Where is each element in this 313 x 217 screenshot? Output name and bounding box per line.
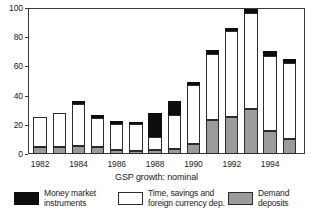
bar-segment-money-market [91,115,104,118]
chart-caption: GSP growth: nominal [0,172,313,183]
bar-segment-time-savings [110,124,123,150]
bar-segment-money-market [187,82,200,86]
x-tick-label: 1992 [223,159,242,169]
chart-legend: Money market instruments Time, savings a… [14,189,306,215]
bar-group [244,9,257,154]
bar-segment-time-savings [206,54,219,120]
bar-segment-demand-deposits [33,147,46,154]
bar-segment-money-market [283,59,296,63]
legend-label-money-market: Money market instruments [44,189,96,208]
bar-segment-demand-deposits [187,144,200,154]
y-tick-label: 20 [14,120,23,129]
bar-segment-time-savings [168,115,181,149]
bar-group [53,113,66,154]
demand-deposits-swatch [228,192,253,205]
y-tick-label: 0 [18,150,23,159]
bar-segment-time-savings [129,124,142,151]
bar-segment-time-savings [283,63,296,138]
bar-segment-money-market [72,101,85,103]
bar-segment-demand-deposits [263,131,276,154]
bar-group [283,59,296,154]
stacked-bar-chart-figure: 020406080100 198219841986198819901992199… [0,0,313,217]
bar-segment-money-market [148,113,161,137]
y-tick-label: 80 [14,33,23,42]
bar-segment-time-savings [263,56,276,130]
bar-segment-time-savings [244,13,257,109]
bar-segment-demand-deposits [244,109,257,154]
bar-segment-money-market [129,122,142,124]
bar-segment-money-market [206,50,219,54]
x-tick-label: 1990 [184,159,203,169]
y-tick-label: 100 [9,4,23,13]
bar-segment-time-savings [187,85,200,143]
bar-segment-demand-deposits [225,117,238,154]
bar-segment-money-market [263,51,276,56]
bar-group [263,51,276,154]
bar-group [168,101,181,154]
bar-group [110,121,123,154]
bar-group [187,82,200,154]
bar-segment-money-market [168,101,181,116]
x-tick-label: 1988 [146,159,165,169]
x-tick-label: 1986 [107,159,126,169]
y-axis: 020406080100 [0,0,28,162]
bar-segment-demand-deposits [283,139,296,154]
bar-segment-time-savings [225,31,238,116]
bars-layer [28,8,305,154]
legend-item-demand-deposits: Demand deposits [228,189,306,208]
bar-segment-time-savings [72,104,85,146]
bar-segment-demand-deposits [206,120,219,154]
bar-group [91,115,104,154]
legend-label-time-savings: Time, savings and foreign currency dep. [148,189,225,208]
bar-group [225,28,238,154]
bar-group [33,117,46,154]
bar-segment-money-market [225,28,238,31]
x-tick-label: 1994 [261,159,280,169]
x-tick-label: 1984 [69,159,88,169]
bar-segment-demand-deposits [53,147,66,154]
x-tick-label: 1982 [31,159,50,169]
time-savings-swatch [118,192,143,205]
bar-segment-demand-deposits [72,146,85,154]
legend-item-time-savings: Time, savings and foreign currency dep. [118,189,225,208]
bar-segment-money-market [244,9,257,13]
bar-segment-time-savings [148,137,161,149]
bar-group [148,113,161,154]
legend-label-demand-deposits: Demand deposits [258,189,306,208]
money-market-swatch [14,192,39,205]
bar-group [206,50,219,154]
bar-group [129,122,142,154]
bar-segment-time-savings [53,113,66,147]
bar-segment-time-savings [91,118,104,148]
bar-segment-time-savings [33,117,46,147]
x-axis: 1982198419861988199019921994 [28,154,305,174]
y-tick-label: 40 [14,91,23,100]
legend-item-money-market: Money market instruments [14,189,96,208]
bar-segment-money-market [110,121,123,124]
y-tick-label: 60 [14,62,23,71]
bar-group [72,101,85,154]
